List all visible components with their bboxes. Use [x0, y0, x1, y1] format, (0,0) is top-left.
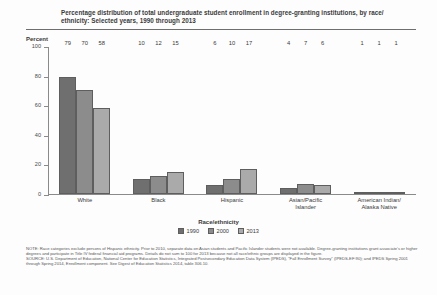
x-axis-line [48, 194, 416, 195]
bar[interactable]: 6 [314, 185, 331, 194]
x-axis-category-label: Hispanic [195, 197, 269, 204]
y-axis-label: Percent [26, 36, 48, 42]
bar-slot: 17 [240, 47, 257, 194]
plot-area: 100806040200 797058White101215Black61017… [48, 47, 416, 195]
bar[interactable]: 58 [93, 108, 110, 194]
bar-value-label: 15 [172, 40, 178, 46]
chart-title: Percentage distribution of total undergr… [61, 9, 416, 26]
bar-value-label: 6 [213, 40, 216, 46]
note-text: NOTE: Race categories exclude persons of… [26, 246, 418, 256]
bar[interactable]: 12 [150, 176, 167, 194]
bar[interactable]: 1 [371, 192, 388, 194]
bar[interactable]: 70 [76, 90, 93, 194]
bar-slot: 7 [297, 47, 314, 194]
x-axis-category-label: White [48, 197, 122, 204]
bar-slot: 79 [59, 47, 76, 194]
bar-value-label: 70 [82, 40, 88, 46]
legend-item-2013[interactable]: 2013 [238, 228, 259, 234]
bar[interactable]: 6 [206, 185, 223, 194]
y-tick-label: 100 [32, 43, 41, 49]
bar-value-label: 4 [287, 40, 290, 46]
x-axis-category-label: Asian/PacificIslander [269, 197, 343, 211]
bar-value-label: 12 [155, 40, 161, 46]
bar[interactable]: 15 [167, 172, 184, 194]
bar-slot: 1 [388, 47, 405, 194]
legend-items: 199020002013 [0, 228, 437, 234]
bar[interactable]: 79 [59, 77, 76, 194]
bar-value-label: 17 [246, 40, 252, 46]
bar-group: 797058 [48, 47, 122, 194]
legend-swatch [238, 228, 244, 234]
bar-value-label: 79 [65, 40, 71, 46]
bar-group: 61017 [195, 47, 269, 194]
source-text: SOURCE: U.S. Department of Education, Na… [26, 256, 418, 266]
bar-value-label: 10 [229, 40, 235, 46]
legend-title: Race/ethnicity [0, 219, 437, 225]
chart-page: Percentage distribution of total undergr… [0, 0, 437, 295]
title-divider [26, 29, 416, 30]
legend-swatch [208, 228, 214, 234]
bar-slot: 4 [280, 47, 297, 194]
bar[interactable]: 7 [297, 184, 314, 194]
bar[interactable]: 1 [354, 192, 371, 194]
chart-title-line-2: ethnicity: Selected years, 1990 through … [61, 17, 416, 25]
bar-group: 111 [342, 47, 416, 194]
bar-slot: 1 [354, 47, 371, 194]
legend-label: 2013 [246, 228, 258, 234]
x-axis-category-line: Hispanic [195, 197, 269, 204]
bar-value-label: 1 [395, 40, 398, 46]
x-axis-category-line: Black [122, 197, 196, 204]
bar[interactable]: 10 [223, 179, 240, 194]
bar[interactable]: 17 [240, 169, 257, 194]
x-axis-category-line: Alaska Native [342, 204, 416, 211]
y-tick-label: 40 [35, 132, 41, 138]
legend-item-2000[interactable]: 2000 [208, 228, 229, 234]
bar-slot: 10 [133, 47, 150, 194]
bar-slot: 6 [314, 47, 331, 194]
legend-swatch [178, 228, 184, 234]
bar-value-label: 10 [138, 40, 144, 46]
x-axis-category-line: White [48, 197, 122, 204]
bar[interactable]: 4 [280, 188, 297, 194]
footnotes: NOTE: Race categories exclude persons of… [26, 246, 418, 266]
y-tick-label: 60 [35, 102, 41, 108]
y-tick-label: 0 [38, 191, 41, 197]
x-axis-category-label: American Indian/Alaska Native [342, 197, 416, 211]
y-tick-label: 80 [35, 73, 41, 79]
bar-value-label: 6 [321, 40, 324, 46]
bar-slot: 15 [167, 47, 184, 194]
bar[interactable]: 1 [388, 192, 405, 194]
bar-slot: 1 [371, 47, 388, 194]
bar[interactable]: 10 [133, 179, 150, 194]
bar-value-label: 7 [304, 40, 307, 46]
bar-value-label: 58 [99, 40, 105, 46]
bar-slot: 10 [223, 47, 240, 194]
y-tick-label: 20 [35, 161, 41, 167]
x-axis-category-line: Islander [269, 204, 343, 211]
x-axis-category-label: Black [122, 197, 196, 204]
bar-slot: 6 [206, 47, 223, 194]
bar-slot: 12 [150, 47, 167, 194]
x-axis-category-line: American Indian/ [342, 197, 416, 204]
bar-group: 476 [269, 47, 343, 194]
y-tick: 0 [44, 195, 49, 196]
chart-title-line-1: Percentage distribution of total undergr… [61, 9, 416, 17]
bar-slot: 58 [93, 47, 110, 194]
legend: Race/ethnicity 199020002013 [0, 219, 437, 234]
legend-label: 2000 [217, 228, 229, 234]
bar-group: 101215 [122, 47, 196, 194]
x-axis-category-line: Asian/Pacific [269, 197, 343, 204]
legend-label: 1990 [187, 228, 199, 234]
bar-value-label: 1 [361, 40, 364, 46]
bar-slot: 70 [76, 47, 93, 194]
bar-value-label: 1 [378, 40, 381, 46]
legend-item-1990[interactable]: 1990 [178, 228, 199, 234]
